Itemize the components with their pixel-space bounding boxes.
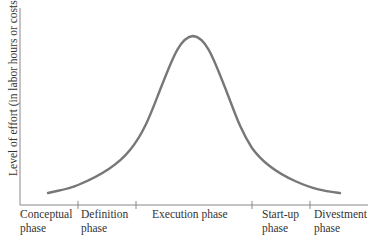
phase-label-line1: Conceptual — [20, 207, 72, 221]
phase-label-execution: Execution phase — [152, 207, 228, 221]
phase-label-line1: Execution phase — [152, 207, 228, 221]
phase-label-line2: phase — [262, 221, 299, 235]
effort-curve-chart — [0, 0, 372, 240]
phase-label-line2: phase — [314, 221, 367, 235]
phase-label-line1: Definition — [81, 207, 128, 221]
phase-label-definition: Definition phase — [81, 207, 128, 235]
phase-label-line2: phase — [20, 221, 72, 235]
phase-label-conceptual: Conceptual phase — [20, 207, 72, 235]
effort-curve — [48, 36, 340, 193]
phase-label-startup: Start-up phase — [262, 207, 299, 235]
y-axis-label: Level of effort (in labor hours or costs… — [7, 26, 19, 176]
phase-label-line1: Start-up — [262, 207, 299, 221]
phase-label-line2: phase — [81, 221, 128, 235]
phase-label-line1: Divestment — [314, 207, 367, 221]
phase-label-divestment: Divestment phase — [314, 207, 367, 235]
